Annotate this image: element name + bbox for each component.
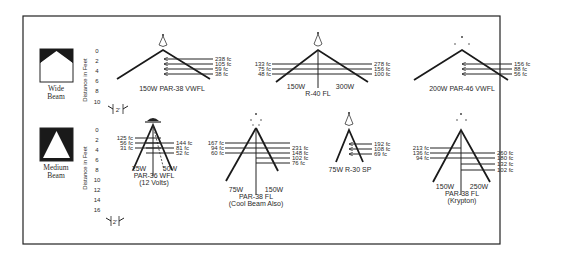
lamp-diagram-par36-wfl: 125 fc 56 fc 31 fc 144 fc 81 fc 52 fc 25… [117, 118, 193, 187]
svg-text:8: 8 [95, 88, 99, 94]
lamp-title: 200W PAR-46 VWFL [429, 85, 495, 92]
lamp-diagram-par38-fl-cool: 167 fc 94 fc 60 fc 231 fc 148 fc 102 fc … [208, 113, 309, 208]
distance-axis-label-wide: Distance in Feet [82, 58, 88, 102]
svg-text:2: 2 [95, 137, 99, 143]
lamp-diagram-par38-vwfl: 238 fc 105 fc 59 fc 38 fc 150W PAR-38 VW… [117, 34, 231, 92]
svg-text:14: 14 [94, 197, 101, 203]
lamp-subtitle: (12 Volts) [139, 179, 169, 187]
lamp-bulb-icon [314, 34, 322, 46]
svg-text:75W: 75W [229, 186, 244, 193]
svg-text:76 fc: 76 fc [292, 160, 305, 166]
svg-text:12: 12 [94, 187, 101, 193]
lamp-title: PAR-38 FL [445, 190, 479, 197]
svg-text:2': 2' [113, 219, 117, 225]
lamp-title: PAR-38 FL [239, 193, 273, 200]
lamp-title: 150W PAR-38 VWFL [139, 85, 205, 92]
lamp-title: PAR-36 WFL [134, 172, 175, 179]
svg-text:60 fc: 60 fc [211, 150, 224, 156]
svg-text:0: 0 [95, 48, 99, 54]
svg-text:0: 0 [95, 127, 99, 133]
svg-text:69 fc: 69 fc [374, 151, 387, 157]
distance-ticks-wide: 0 2 4 6 8 10 [94, 48, 101, 105]
svg-text:100 fc: 100 fc [374, 71, 390, 77]
svg-text:31 fc: 31 fc [120, 145, 133, 151]
distance-axis-label-medium: Distance in Feet [82, 146, 88, 190]
svg-text:150W: 150W [265, 186, 284, 193]
svg-text:2': 2' [116, 107, 120, 113]
svg-text:300W: 300W [336, 83, 355, 90]
svg-text:102 fc: 102 fc [497, 167, 513, 173]
svg-text:10: 10 [94, 99, 101, 105]
svg-text:8: 8 [95, 167, 99, 173]
lamp-subtitle: (Cool Beam Also) [229, 200, 283, 208]
svg-text:48 fc: 48 fc [258, 71, 271, 77]
lamp-subtitle: (Krypton) [448, 197, 477, 205]
lamp-bulb-icon [345, 114, 353, 126]
beam-spread-diagram: Wide Beam Distance in Feet 0 2 4 6 8 10 … [0, 0, 573, 259]
wide-beam-label-line2: Beam [47, 92, 65, 101]
svg-text:150W: 150W [436, 183, 455, 190]
lamp-diagram-par38-fl-krypton: 213 fc 136 fc 94 fc 260 fc 180 fc 132 fc… [413, 113, 514, 205]
scale-marker-wide: 2' [108, 104, 128, 114]
svg-text:6: 6 [95, 78, 99, 84]
svg-text:38 fc: 38 fc [215, 71, 228, 77]
scale-marker-medium: 2' [106, 216, 124, 226]
medium-beam-label-line2: Beam [47, 171, 65, 180]
lamp-title: 75W R-30 SP [329, 166, 372, 173]
svg-text:25W: 25W [132, 165, 147, 172]
wide-beam-icon [40, 49, 73, 82]
svg-text:4: 4 [95, 147, 99, 153]
svg-text:56 fc: 56 fc [514, 71, 527, 77]
lamp-title: R-40 FL [305, 90, 330, 97]
svg-text:50W: 50W [163, 165, 178, 172]
svg-text:150W: 150W [287, 83, 306, 90]
svg-text:6: 6 [95, 157, 99, 163]
medium-beam-icon [40, 128, 73, 161]
lamp-bulb-icon [159, 36, 167, 47]
svg-text:94 fc: 94 fc [416, 155, 429, 161]
lamp-bulb-icon [147, 118, 159, 121]
lamp-diagram-par46-vwfl: 156 fc 88 fc 56 fc 200W PAR-46 VWFL [414, 36, 530, 92]
svg-text:2: 2 [95, 58, 99, 64]
lamp-diagram-r30-sp: 192 fc 108 fc 69 fc 75W R-30 SP [329, 112, 391, 173]
svg-text:16: 16 [94, 207, 101, 213]
svg-text:52 fc: 52 fc [176, 150, 189, 156]
svg-text:250W: 250W [470, 183, 489, 190]
lamp-diagram-r40-fl: 133 fc 75 fc 48 fc 278 fc 156 fc 100 fc … [255, 32, 391, 97]
distance-ticks-medium: 0 2 4 6 8 10 12 14 16 [94, 127, 101, 213]
svg-text:4: 4 [95, 68, 99, 74]
svg-text:10: 10 [94, 177, 101, 183]
